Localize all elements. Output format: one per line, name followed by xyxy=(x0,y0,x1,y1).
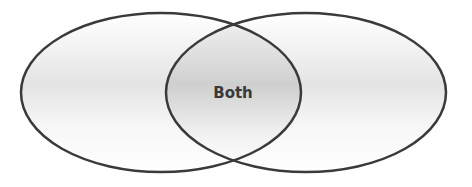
venn-svg: Both xyxy=(0,0,472,187)
venn-diagram: Both xyxy=(0,0,472,187)
intersection-label: Both xyxy=(213,84,253,102)
